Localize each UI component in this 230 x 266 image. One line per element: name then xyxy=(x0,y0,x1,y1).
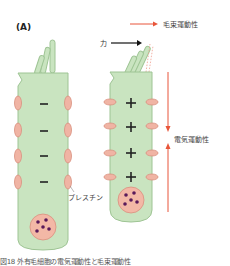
right-nucleus xyxy=(118,187,144,213)
panel-label: (A) xyxy=(16,22,31,32)
electromotility-label: 電気運動性 xyxy=(174,134,209,144)
left-hair-cell xyxy=(15,40,75,250)
figure-caption: 図18 外有毛細胞の電気運動性と毛束運動性 xyxy=(0,256,131,266)
legend-arrow-icon xyxy=(130,22,158,27)
force-arrow xyxy=(111,40,142,46)
right-hair-cell xyxy=(104,44,158,222)
legend-hair-bundle-motility: 毛束運動性 xyxy=(163,19,198,29)
prestin-label: プレスチン xyxy=(68,192,103,202)
left-nucleus xyxy=(30,214,56,240)
force-label: 力 xyxy=(100,38,107,48)
left-stereocilia xyxy=(34,40,55,75)
electromotility-arrow xyxy=(166,72,171,212)
